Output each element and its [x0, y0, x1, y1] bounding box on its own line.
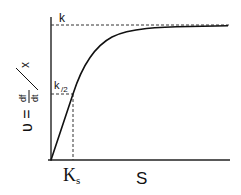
svg-text:x: x [18, 62, 32, 68]
svg-text:df: df [18, 94, 28, 102]
y-axis-label: υ = df dt x [16, 62, 40, 132]
svg-text:υ =: υ = [18, 109, 35, 132]
svg-text:k: k [54, 79, 60, 91]
saturation-curve [51, 26, 228, 160]
saturation-curve-diagram: k k /2 K s S υ = df dt x [0, 0, 241, 195]
svg-text:/2: /2 [61, 85, 68, 94]
x-axis-label: S [136, 169, 147, 188]
svg-text:dt: dt [30, 94, 40, 102]
k-label: k [59, 11, 66, 25]
svg-text:s: s [76, 174, 80, 186]
ks-label: K s [63, 165, 80, 186]
half-k-label: k /2 [54, 79, 68, 94]
svg-text:K: K [63, 165, 76, 185]
